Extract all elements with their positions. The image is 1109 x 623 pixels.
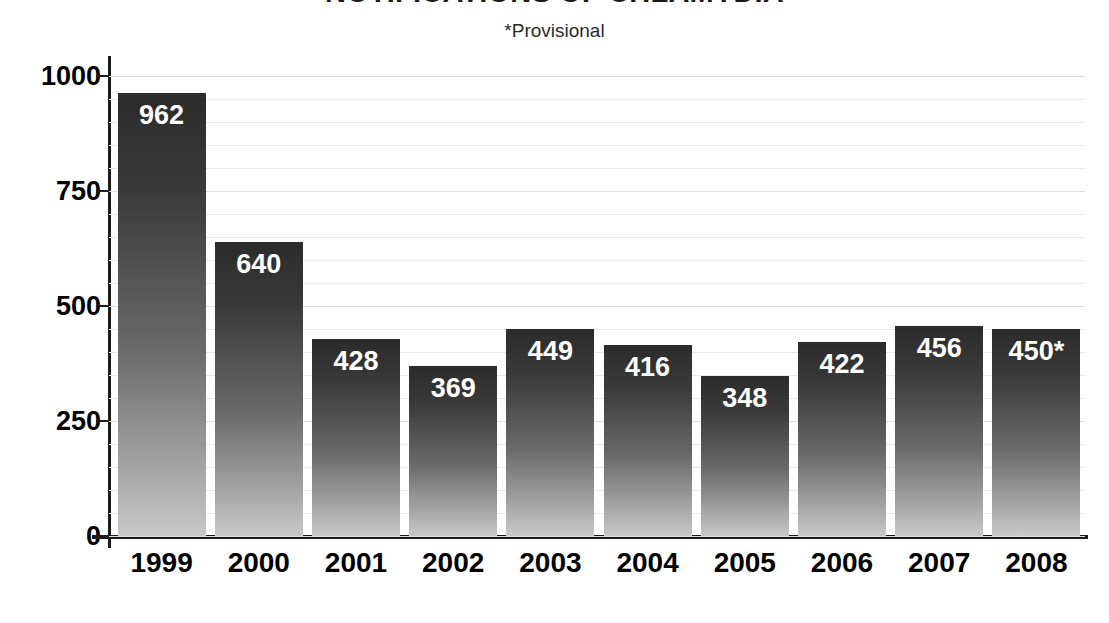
y-axis-tick-label: 500 (15, 291, 101, 322)
y-axis-tick-group: 02505007501000 (0, 0, 101, 623)
x-axis-tick-label: 2003 (506, 547, 594, 579)
bar-value-label: 450* (992, 336, 1080, 367)
bar-value-label: 456 (895, 333, 983, 364)
gridline (109, 536, 1085, 537)
bar-value-label: 422 (798, 349, 886, 380)
x-axis-tick-label: 1999 (118, 547, 206, 579)
gridline (109, 122, 1085, 123)
gridline (109, 214, 1085, 215)
bar[interactable]: 422 (798, 342, 886, 536)
x-axis-tick-group: 1999200020012002200320042005200620072008 (113, 547, 1085, 587)
x-axis-tick-label: 2001 (312, 547, 400, 579)
chart-title: NOTIFICATIONS OF CHLAMYDIA (0, 0, 1109, 9)
x-axis-tick-label: 2004 (604, 547, 692, 579)
bar[interactable]: 640 (215, 242, 303, 536)
bar-value-label: 348 (701, 383, 789, 414)
gridline (109, 168, 1085, 169)
bar[interactable]: 348 (701, 376, 789, 536)
y-axis-line (108, 56, 111, 548)
gridline (109, 237, 1085, 238)
bar[interactable]: 456 (895, 326, 983, 536)
bar-value-label: 449 (506, 336, 594, 367)
bar[interactable]: 450* (992, 329, 1080, 536)
bar[interactable]: 449 (506, 329, 594, 536)
bar-value-label: 416 (604, 352, 692, 383)
x-axis-tick-label: 2006 (798, 547, 886, 579)
x-axis-tick-label: 2002 (409, 547, 497, 579)
y-axis-tick-label: 0 (15, 521, 101, 552)
x-axis-tick-label: 2007 (895, 547, 983, 579)
provisional-footnote: *Provisional (0, 20, 1109, 42)
bar-value-label: 640 (215, 249, 303, 280)
y-axis-tick-label: 250 (15, 406, 101, 437)
x-axis-tick-label: 2008 (992, 547, 1080, 579)
gridline (109, 191, 1085, 192)
bar[interactable]: 962 (118, 93, 206, 536)
bar[interactable]: 428 (312, 339, 400, 536)
x-axis-tick-label: 2000 (215, 547, 303, 579)
bar-value-label: 369 (409, 373, 497, 404)
bar[interactable]: 416 (604, 345, 692, 536)
bar-value-label: 962 (118, 100, 206, 131)
plot-area: 962640428369449416348422456450* (113, 76, 1085, 536)
gridline (109, 76, 1085, 77)
y-axis-tick-label: 750 (15, 176, 101, 207)
y-axis-tick-label: 1000 (15, 61, 101, 92)
bar[interactable]: 369 (409, 366, 497, 536)
x-axis-tick-label: 2005 (701, 547, 789, 579)
bar-value-label: 428 (312, 346, 400, 377)
gridline (109, 99, 1085, 100)
gridline (109, 145, 1085, 146)
chart-container: NOTIFICATIONS OF CHLAMYDIA *Provisional … (0, 0, 1109, 623)
